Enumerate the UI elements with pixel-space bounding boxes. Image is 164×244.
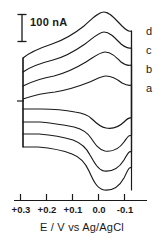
x-tick-label-0: +0.3 <box>12 205 31 215</box>
curve-b <box>23 52 132 151</box>
curve-label-d: d <box>146 26 152 37</box>
x-tick-label-3: 0.0 <box>92 205 105 215</box>
x-axis <box>14 194 147 201</box>
curve-a <box>23 76 132 128</box>
x-tick-label-2: +0.1 <box>64 205 83 215</box>
voltammogram-figure: 100 nA d c b a +0.3 +0.2 +0.1 0.0 -0.1 E… <box>0 0 164 244</box>
x-axis-title: E / V vs Ag/AgCl <box>40 222 124 233</box>
curve-label-b: b <box>146 64 152 75</box>
curve-label-c: c <box>146 45 152 56</box>
scale-bar <box>18 14 27 42</box>
x-tick-label-1: +0.2 <box>38 205 57 215</box>
x-tick-label-4: -0.1 <box>117 205 133 215</box>
scale-bar-label: 100 nA <box>30 17 67 28</box>
curve-label-a: a <box>146 83 152 94</box>
